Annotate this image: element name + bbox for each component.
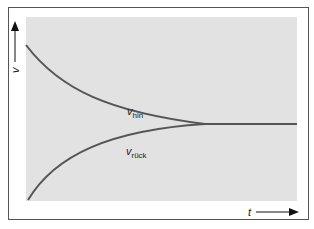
label-v-hin-sub: hin bbox=[133, 111, 144, 120]
label-v-rueck-sub: rück bbox=[132, 151, 148, 160]
plot-area bbox=[26, 17, 297, 201]
velocity-diagram: v t vhin vrück bbox=[0, 0, 314, 229]
